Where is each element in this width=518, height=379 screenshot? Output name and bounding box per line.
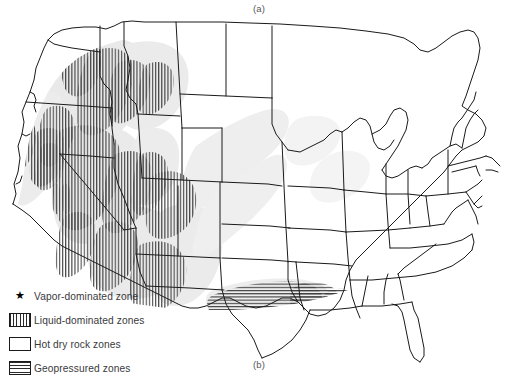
legend-item-hot-dry-rock: Hot dry rock zones <box>6 332 196 356</box>
vapor-dominated-swatch: ★ <box>6 291 34 302</box>
vertical-hatch-icon <box>9 313 31 327</box>
us-geothermal-map: ★ Vapor-dominated zone Liquid-dominated … <box>0 18 518 363</box>
empty-box-icon <box>9 337 31 351</box>
star-icon: ★ <box>15 290 25 301</box>
figure-root: (a) <box>0 0 518 379</box>
legend-item-vapor-dominated: ★ Vapor-dominated zone <box>6 284 196 308</box>
figure-caption-a: (a) <box>0 3 518 14</box>
legend-item-liquid-dominated: Liquid-dominated zones <box>6 308 196 332</box>
liquid-dominated-swatch <box>6 313 34 327</box>
hot-dry-rock-swatch <box>6 337 34 351</box>
legend-label-vapor-dominated: Vapor-dominated zone <box>34 291 138 302</box>
legend-label-hot-dry-rock: Hot dry rock zones <box>34 339 121 350</box>
figure-caption-b: (b) <box>0 359 518 370</box>
legend-label-liquid-dominated: Liquid-dominated zones <box>34 315 144 326</box>
